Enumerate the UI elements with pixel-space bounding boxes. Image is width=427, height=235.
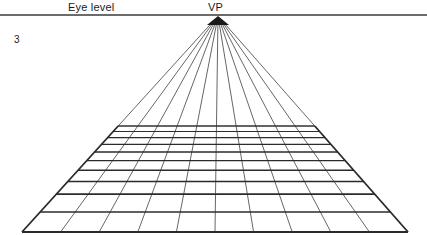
figure-number: 3 xyxy=(14,34,20,46)
vanishing-ray-1 xyxy=(61,24,213,232)
grid-edge-right xyxy=(315,126,408,232)
vanishing-ray-3 xyxy=(138,24,215,232)
vanishing-ray-8 xyxy=(222,24,331,232)
vanishing-point-label: VP xyxy=(208,1,223,13)
eye-level-label: Eye level xyxy=(68,1,114,13)
vanishing-ray-7 xyxy=(221,24,292,232)
vanishing-ray-6 xyxy=(219,24,253,232)
vanishing-point-marker xyxy=(207,16,229,25)
vanishing-ray-9 xyxy=(224,24,370,232)
vanishing-ray-5 xyxy=(215,24,218,232)
vp-convergence-wedge xyxy=(207,16,229,25)
perspective-diagram: Eye level VP 3 xyxy=(0,0,427,235)
vanishing-rays-group xyxy=(22,24,408,232)
grid-edge-left xyxy=(22,126,118,232)
perspective-grid-svg xyxy=(0,0,427,235)
